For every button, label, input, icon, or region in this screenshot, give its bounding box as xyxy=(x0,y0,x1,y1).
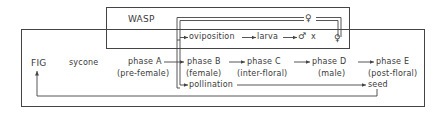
sycone-label: sycone xyxy=(69,58,98,68)
mating-male-symbol: ♂ xyxy=(298,31,306,41)
mating-x-label: x xyxy=(311,32,316,42)
phase-a-name: phase A xyxy=(128,57,162,67)
mating-female-symbol: ♀ xyxy=(334,33,341,43)
fig-title: FIG xyxy=(31,58,46,68)
pollination-label: pollination xyxy=(189,80,233,90)
phase-b-name: phase B xyxy=(187,57,221,67)
phase-c-name: phase C xyxy=(247,57,281,67)
oviposition-label: oviposition xyxy=(189,32,235,42)
phase-d-name: phase D xyxy=(312,57,346,67)
phase-b-description: (female) xyxy=(186,69,221,79)
wasp-female-symbol: ♀ xyxy=(305,13,312,23)
phase-e-name: phase E xyxy=(376,57,409,67)
seed-label: seed xyxy=(368,80,388,90)
phase-a-description: (pre-female) xyxy=(117,69,169,79)
phase-c-description: (inter-floral) xyxy=(237,69,287,79)
phase-d-description: (male) xyxy=(318,69,345,79)
larva-label: larva xyxy=(257,32,278,42)
wasp-title: WASP xyxy=(128,14,155,24)
phase-e-description: (post-floral) xyxy=(368,69,417,79)
